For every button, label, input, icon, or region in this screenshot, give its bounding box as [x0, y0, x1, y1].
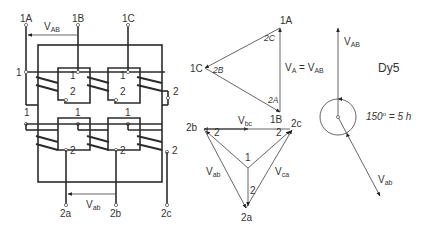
- lv-star-phasor: 2b 2c 2a 1 2 2 2 Vbc Vab Vca: [186, 115, 302, 223]
- hv-delta-phasor: 1A 1C 1B 2C 2B 2A VA = VAB: [190, 15, 324, 125]
- hv-vertex-1C: 1C: [190, 63, 203, 74]
- vector-group-label: Dy5: [378, 61, 400, 75]
- terminal-2c: [165, 203, 168, 206]
- lv-vbc-label: Vbc: [238, 115, 253, 127]
- terminal-1C: [126, 23, 129, 26]
- terminal-2c-label: 2c: [161, 208, 172, 219]
- hv-inner-2C: 2C: [263, 33, 276, 43]
- va-vab-equation: VA = VAB: [285, 62, 324, 74]
- terminal-1A-label: 1A: [20, 13, 33, 24]
- lv-end-label-a: 2: [250, 185, 256, 196]
- transformer-core: [38, 45, 162, 182]
- terminal-1C-label: 1C: [122, 13, 135, 24]
- lv-winding-2-end: 2: [120, 145, 126, 156]
- phase-shift-label: 150o = 5 h: [366, 111, 412, 122]
- lv-vab-label: Vab: [206, 166, 221, 178]
- lv-vertex-2c: 2c: [291, 118, 302, 129]
- hv-windings: [24, 70, 169, 105]
- lv-neutral-label: 1: [245, 152, 251, 163]
- lv-end-label-c: 2: [276, 127, 282, 138]
- lv-vertex-2a: 2a: [241, 212, 253, 223]
- lv-winding-1-end: 2: [70, 145, 76, 156]
- hv-winding-2-start: 1: [70, 70, 76, 81]
- hv-winding-3-end: 2: [173, 86, 179, 97]
- clock-vab-hv-label: VAB: [344, 36, 360, 48]
- lv-windings: [24, 122, 168, 205]
- hv-vertex-1B: 1B: [270, 114, 283, 125]
- clock-vab-lv-label: Vab: [378, 174, 393, 186]
- terminal-2a-label: 2a: [60, 208, 72, 219]
- terminal-1B: [76, 23, 79, 26]
- hv-inner-2A: 2A: [267, 95, 279, 105]
- clock-diagram: VAB Vab Dy5 150o = 5 h: [320, 28, 412, 196]
- dy5-diagram: 1A 1B 1C VAB: [0, 0, 429, 233]
- transformer-wiring: 1A 1B 1C VAB: [16, 13, 179, 219]
- terminal-2b-label: 2b: [110, 208, 122, 219]
- hv-winding-3-start: 1: [120, 70, 126, 81]
- hv-voltage-label: VAB: [44, 21, 60, 33]
- lv-winding-3-end: 2: [172, 145, 178, 156]
- lv-end-label-b: 2: [214, 127, 220, 138]
- lv-voltage-label: Vab: [86, 199, 101, 211]
- hv-winding-1-end: 2: [70, 86, 76, 97]
- lv-vca-label: Vca: [275, 166, 289, 178]
- terminal-1B-label: 1B: [72, 13, 85, 24]
- terminal-2a: [64, 203, 67, 206]
- lv-winding-2-start: 1: [75, 107, 81, 118]
- hv-winding-1-start: 1: [16, 67, 22, 78]
- terminal-2b: [114, 203, 117, 206]
- hv-winding-2-end: 2: [120, 86, 126, 97]
- lv-vertex-2b: 2b: [186, 122, 198, 133]
- hv-vertex-1A: 1A: [280, 15, 293, 26]
- lv-winding-1-start: 1: [24, 107, 30, 118]
- terminal-1A: [24, 23, 27, 26]
- hv-inner-2B: 2B: [212, 65, 224, 75]
- lv-winding-3-start: 1: [125, 107, 131, 118]
